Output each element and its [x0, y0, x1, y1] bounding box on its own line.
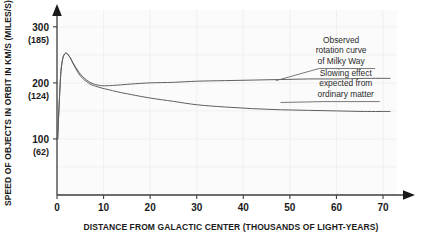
annotation-text: Slowing effectexpected fromordinary matt… [318, 68, 375, 99]
y-tick-sublabel: (62) [33, 147, 49, 157]
y-tick-label: 300 [32, 22, 49, 33]
x-axis-tick-labels: 010203040506070 [54, 202, 389, 213]
x-tick-label: 50 [284, 202, 296, 213]
x-axis-title: DISTANCE FROM GALACTIC CENTER (THOUSANDS… [84, 222, 379, 232]
rotation-curve-figure: 010203040506070 100(62)200(124)300(185) … [0, 0, 427, 247]
y-axis-tick-labels: 100(62)200(124)300(185) [28, 22, 49, 157]
x-tick-label: 10 [98, 202, 110, 213]
x-tick-label: 60 [331, 202, 343, 213]
y-tick-label: 100 [32, 134, 49, 145]
chart-canvas: 010203040506070 100(62)200(124)300(185) … [0, 0, 427, 247]
x-axis-arrow-icon [403, 190, 415, 200]
y-tick-label: 200 [32, 78, 49, 89]
annotation-text: Observedrotation curveof Milky Way [316, 35, 367, 66]
y-axis-title: SPEED OF OBJECTS IN ORBIT IN KM/S (MILES… [3, 0, 13, 206]
x-tick-label: 20 [145, 202, 157, 213]
x-tick-label: 30 [191, 202, 203, 213]
y-tick-sublabel: (124) [28, 91, 49, 101]
x-tick-label: 0 [54, 202, 60, 213]
x-tick-label: 40 [238, 202, 250, 213]
y-tick-sublabel: (185) [28, 35, 49, 45]
x-tick-label: 70 [377, 202, 389, 213]
